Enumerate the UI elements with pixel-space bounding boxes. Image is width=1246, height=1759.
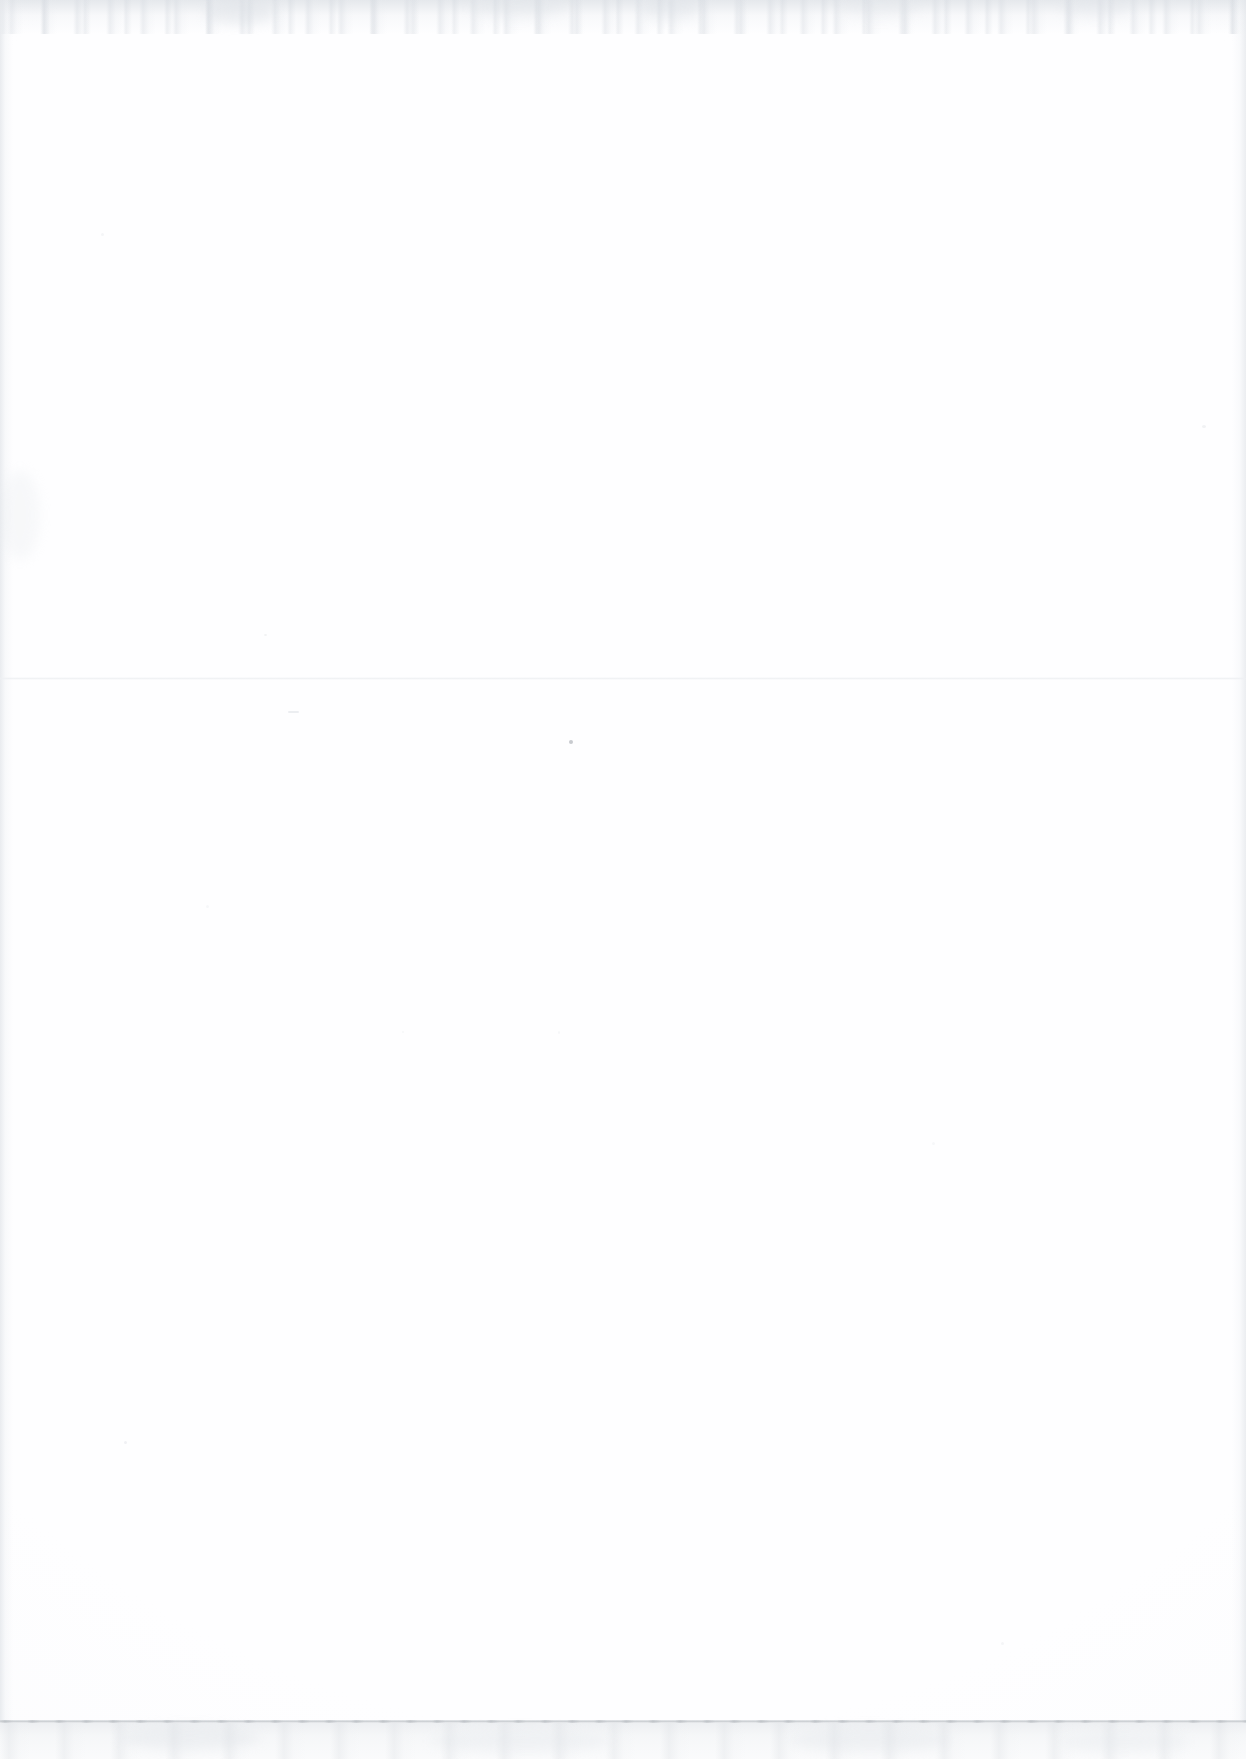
scan-edge-left-artifact <box>0 0 13 1721</box>
scan-smudge-bot-smudge-d <box>1060 1732 1190 1752</box>
scan-edge-right-artifact <box>1232 0 1246 1721</box>
paper-sheet <box>0 0 1246 1721</box>
scan-edge-top-artifact <box>0 0 1246 34</box>
page-text-content <box>110 120 1130 1600</box>
scanner-bed-area <box>0 1723 1246 1759</box>
scanned-page <box>0 0 1246 1759</box>
scan-smudge-bot-smudge-b <box>430 1730 610 1752</box>
scan-smudge-bot-smudge-c <box>790 1728 950 1752</box>
scan-smudge-bot-smudge-a <box>120 1726 260 1750</box>
